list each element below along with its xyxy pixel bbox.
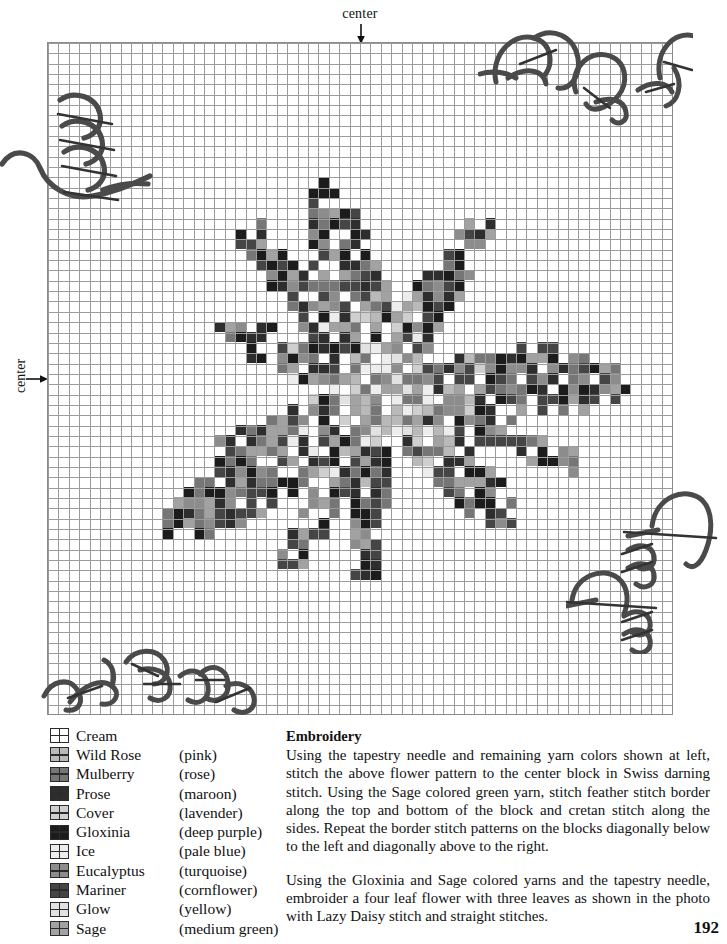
stitch-cell — [422, 270, 432, 280]
stitch-cell — [558, 394, 568, 404]
stitch-cell — [381, 497, 391, 507]
stitch-cell — [329, 342, 339, 352]
stitch-cell — [422, 342, 432, 352]
stitch-cell — [298, 446, 308, 456]
stitch-cell — [308, 198, 318, 208]
cretan-stitch-illustration-right — [566, 476, 726, 654]
stitch-cell — [287, 270, 297, 280]
legend-swatch — [50, 805, 69, 820]
stitch-cell — [287, 559, 297, 569]
stitch-cell — [298, 508, 308, 518]
stitch-cell — [339, 435, 349, 445]
stitch-cell — [516, 342, 526, 352]
stitch-cell — [277, 446, 287, 456]
stitch-cell — [433, 435, 443, 445]
stitch-cell — [589, 394, 599, 404]
stitch-cell — [558, 363, 568, 373]
stitch-cell — [402, 311, 412, 321]
stitch-cell — [350, 425, 360, 435]
stitch-cell — [464, 466, 474, 476]
stitch-cell — [381, 280, 391, 290]
stitch-cell — [350, 384, 360, 394]
stitch-cell — [422, 332, 432, 342]
stitch-cell — [516, 435, 526, 445]
stitch-cell — [225, 332, 235, 342]
stitch-cell — [298, 466, 308, 476]
stitch-cell — [318, 280, 328, 290]
stitch-cell — [495, 477, 505, 487]
stitch-cell — [464, 239, 474, 249]
stitch-cell — [225, 435, 235, 445]
stitch-cell — [173, 518, 183, 528]
stitch-cell — [443, 435, 453, 445]
stitch-cell — [433, 373, 443, 383]
legend-color-description: (yellow) — [179, 900, 232, 918]
stitch-cell — [485, 518, 495, 528]
stitch-cell — [360, 569, 370, 579]
legend-row: Mariner(cornflower) — [50, 880, 282, 899]
stitch-cell — [329, 322, 339, 332]
stitch-cell — [318, 229, 328, 239]
stitch-cell — [214, 508, 224, 518]
legend-swatch — [50, 883, 69, 898]
stitch-cell — [204, 497, 214, 507]
stitch-cell — [246, 342, 256, 352]
stitch-cell — [443, 425, 453, 435]
stitch-cell — [402, 394, 412, 404]
stitch-cell — [329, 353, 339, 363]
stitch-cell — [214, 435, 224, 445]
stitch-cell — [454, 384, 464, 394]
stitch-cell — [558, 456, 568, 466]
stitch-cell — [350, 353, 360, 363]
stitch-cell — [381, 342, 391, 352]
stitch-cell — [610, 394, 620, 404]
stitch-cell — [360, 528, 370, 538]
stitch-cell — [256, 425, 266, 435]
legend-color-name: Prose — [76, 785, 179, 803]
stitch-cell — [287, 415, 297, 425]
stitch-cell — [495, 435, 505, 445]
stitch-cell — [464, 404, 474, 414]
stitch-cell — [246, 477, 256, 487]
stitch-cell — [381, 456, 391, 466]
stitch-cell — [464, 270, 474, 280]
stitch-cell — [318, 518, 328, 528]
stitch-cell — [422, 373, 432, 383]
stitch-cell — [412, 353, 422, 363]
stitch-cell — [547, 373, 557, 383]
stitch-cell — [194, 508, 204, 518]
stitch-cell — [266, 249, 276, 259]
stitch-cell — [225, 497, 235, 507]
stitch-cell — [443, 270, 453, 280]
stitch-cell — [246, 353, 256, 363]
stitch-cell — [443, 384, 453, 394]
stitch-cell — [599, 373, 609, 383]
legend-row: Sage(medium green) — [50, 919, 282, 938]
stitch-cell — [360, 539, 370, 549]
stitch-cell — [506, 415, 516, 425]
stitch-cell — [464, 394, 474, 404]
stitch-cell — [454, 415, 464, 425]
legend-color-name: Glow — [76, 900, 179, 918]
stitch-cell — [422, 456, 432, 466]
stitch-cell — [360, 363, 370, 373]
stitch-cell — [443, 301, 453, 311]
stitch-cell — [350, 280, 360, 290]
stitch-cell — [370, 569, 380, 579]
stitch-cell — [277, 260, 287, 270]
stitch-cell — [277, 342, 287, 352]
stitch-cell — [454, 270, 464, 280]
stitch-cell — [329, 425, 339, 435]
stitch-cell — [266, 446, 276, 456]
stitch-cell — [329, 435, 339, 445]
stitch-cell — [599, 384, 609, 394]
stitch-cell — [246, 446, 256, 456]
stitch-cell — [370, 291, 380, 301]
stitch-cell — [433, 446, 443, 456]
legend-row: Gloxinia(deep purple) — [50, 822, 282, 841]
stitch-cell — [194, 528, 204, 538]
stitch-cell — [277, 415, 287, 425]
stitch-cell — [287, 539, 297, 549]
stitch-cell — [318, 497, 328, 507]
stitch-cell — [350, 229, 360, 239]
